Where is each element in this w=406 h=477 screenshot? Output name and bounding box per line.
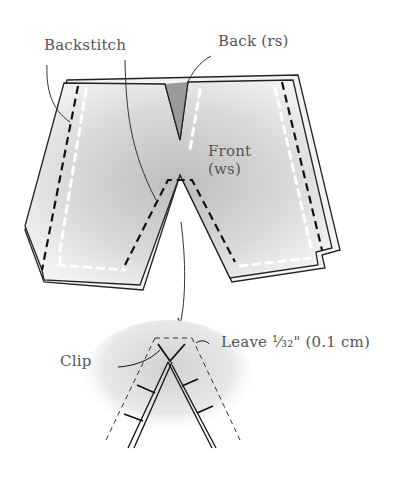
label-back-rs: Back (rs) xyxy=(218,32,289,50)
label-ws: (ws) xyxy=(208,160,241,178)
label-clip: Clip xyxy=(60,352,91,370)
label-backstitch: Backstitch xyxy=(44,36,126,54)
sewing-diagram xyxy=(0,0,406,477)
label-leave: Leave ¹⁄₃₂" (0.1 cm) xyxy=(221,333,370,351)
label-front: Front xyxy=(208,142,251,160)
